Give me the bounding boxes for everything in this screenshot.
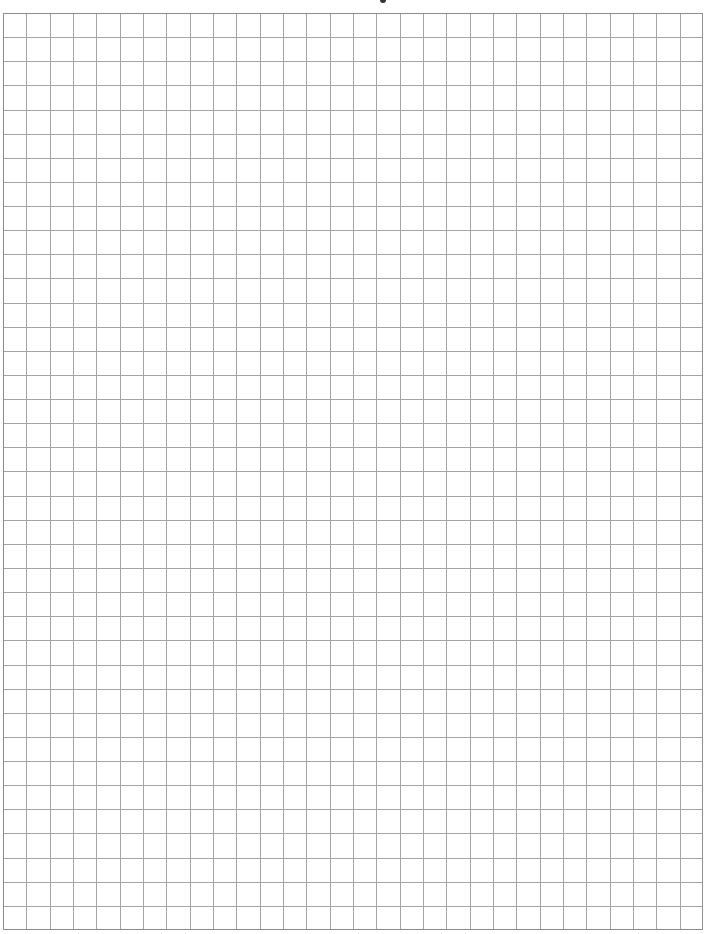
graph-paper-grid (3, 13, 703, 930)
cropped-title-mark (380, 0, 386, 3)
